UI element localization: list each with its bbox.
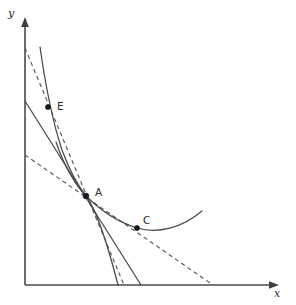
point-marker-c[interactable] xyxy=(134,225,139,230)
indifference-curves-group xyxy=(40,47,202,285)
y-axis-arrow-icon xyxy=(21,17,29,27)
point-label-e: E xyxy=(57,100,64,112)
axis-labels-group: y x xyxy=(7,7,281,300)
points-group: E A C xyxy=(45,100,150,231)
point-label-c: C xyxy=(143,214,150,226)
point-marker-e[interactable] xyxy=(45,104,50,109)
x-axis-label: x xyxy=(274,287,281,300)
indifference-curve-figure: E A C y x xyxy=(0,0,296,305)
indifference-curve-lower xyxy=(56,142,202,230)
indifference-curve-upper xyxy=(40,47,118,285)
y-axis-label: y xyxy=(7,7,15,20)
point-label-a: A xyxy=(95,186,103,198)
figure-canvas: E A C y x xyxy=(0,0,296,305)
point-marker-a[interactable] xyxy=(83,193,89,199)
budget-line-dashed-steep xyxy=(25,48,124,285)
